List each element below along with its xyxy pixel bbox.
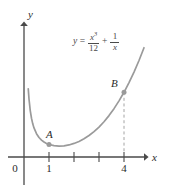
origin-label: 0	[10, 163, 20, 174]
equation-term-2: 1 x	[110, 32, 119, 52]
equation-term-1-numerator: x3	[89, 31, 98, 43]
x-axis-label: x	[152, 152, 157, 163]
y-axis-label: y	[28, 9, 33, 20]
point-b-label: B	[111, 78, 118, 89]
point-b-marker	[122, 90, 127, 95]
equation-term-2-numerator: 1	[112, 32, 119, 42]
point-a-label: A	[46, 129, 53, 140]
equation-term-2-denominator: x	[112, 43, 118, 53]
function-graph-figure: y x 0 1 4 A B y = x3 12 + 1 x	[0, 0, 169, 188]
x-tick-label-4: 4	[119, 163, 129, 174]
equation-plus-sign: +	[100, 37, 110, 47]
equation-equals-sign: =	[77, 37, 87, 47]
equation-annotation: y = x3 12 + 1 x	[73, 31, 120, 53]
equation-term-1: x3 12	[88, 31, 99, 53]
point-a-marker	[47, 142, 52, 147]
equation-term-1-denominator: 12	[88, 44, 99, 54]
equation-term-1-exponent: 3	[94, 30, 97, 37]
plot-canvas	[0, 0, 169, 188]
x-tick-label-1: 1	[44, 163, 54, 174]
